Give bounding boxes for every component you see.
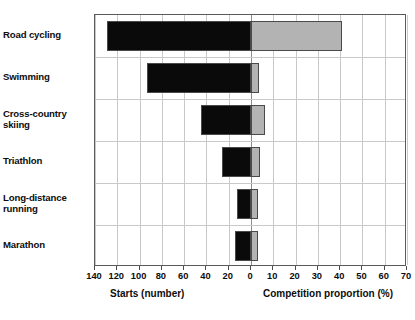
- bar-competition-proportion: [251, 189, 258, 219]
- x-axis-tick-labels: 14012010080604020010203040506070: [94, 267, 406, 281]
- tick-label-right-60: 60: [379, 271, 389, 282]
- bar-competition-proportion: [251, 21, 342, 51]
- category-label-swimming: Swimming: [3, 71, 91, 83]
- tick-label-left-20: 20: [223, 271, 233, 282]
- bar-row: [95, 141, 405, 183]
- category-label-marathon: Marathon: [3, 239, 91, 251]
- category-label-cross-country-skiing: Cross-countryskiing: [3, 108, 91, 131]
- category-label-line: Marathon: [3, 239, 91, 251]
- tick-label-left-60: 60: [178, 271, 188, 282]
- tick-label-left-80: 80: [156, 271, 166, 282]
- tick-label-left-0: 0: [247, 271, 252, 282]
- bar-starts: [107, 21, 251, 51]
- category-label-line: skiing: [3, 119, 91, 131]
- plot-inner: [95, 15, 405, 265]
- chart-figure: Road cyclingSwimmingCross-countryskiingT…: [0, 0, 415, 320]
- tick-label-left-120: 120: [109, 271, 125, 282]
- bar-row: [95, 57, 405, 99]
- category-label-line: Swimming: [3, 71, 91, 83]
- category-label-line: Long-distance: [3, 192, 91, 204]
- category-label-line: running: [3, 203, 91, 215]
- tick-label-left-100: 100: [131, 271, 147, 282]
- category-label-triathlon: Triathlon: [3, 155, 91, 167]
- right-axis-title: Competition proportion (%): [263, 288, 393, 300]
- tick-label-right-10: 10: [267, 271, 277, 282]
- tick-label-right-40: 40: [334, 271, 344, 282]
- category-label-line: Road cycling: [3, 29, 91, 41]
- tick-label-right-70: 70: [401, 271, 411, 282]
- bar-starts: [222, 147, 251, 177]
- tick-label-left-40: 40: [200, 271, 210, 282]
- axis-tick: [406, 266, 407, 270]
- bar-competition-proportion: [251, 63, 259, 93]
- bar-row: [95, 15, 405, 57]
- bar-competition-proportion: [251, 105, 265, 135]
- bar-starts: [147, 63, 251, 93]
- category-label-road-cycling: Road cycling: [3, 29, 91, 41]
- bar-row: [95, 225, 405, 267]
- category-label-line: Cross-country: [3, 108, 91, 120]
- vertical-gridline: [407, 15, 408, 265]
- bar-competition-proportion: [251, 147, 260, 177]
- category-label-line: Triathlon: [3, 155, 91, 167]
- category-axis-labels: Road cyclingSwimmingCross-countryskiingT…: [3, 14, 91, 266]
- plot-area: [94, 14, 406, 266]
- tick-label-right-50: 50: [356, 271, 366, 282]
- bar-competition-proportion: [251, 231, 258, 261]
- tick-label-left-140: 140: [86, 271, 102, 282]
- bar-row: [95, 99, 405, 141]
- bar-starts: [237, 189, 251, 219]
- category-label-long-distance-running: Long-distancerunning: [3, 192, 91, 215]
- cropped-caption-artifact: [2, 312, 262, 319]
- bar-starts: [201, 105, 251, 135]
- left-axis-title: Starts (number): [110, 288, 184, 300]
- bar-starts: [235, 231, 251, 261]
- tick-label-right-20: 20: [289, 271, 299, 282]
- tick-label-right-30: 30: [312, 271, 322, 282]
- bar-row: [95, 183, 405, 225]
